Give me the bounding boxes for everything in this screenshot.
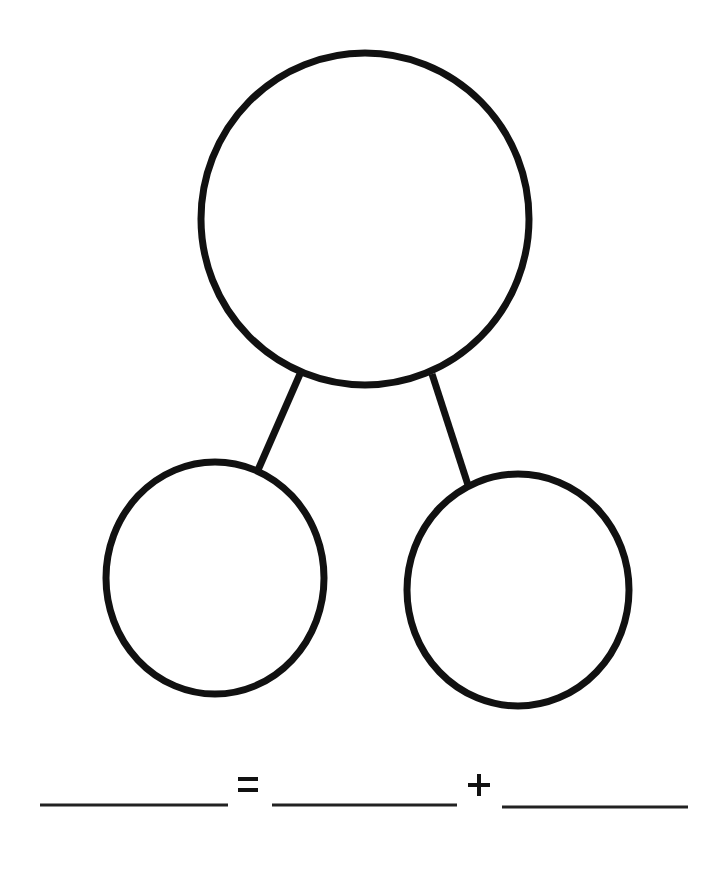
connector-left [258,374,300,470]
plus-sign [468,774,490,796]
equals-sign [238,777,258,792]
number-bond-diagram [0,0,725,871]
part-circle-left[interactable] [106,462,324,694]
whole-circle[interactable] [201,53,529,385]
connector-right [432,374,468,485]
part-circle-right[interactable] [407,474,629,706]
